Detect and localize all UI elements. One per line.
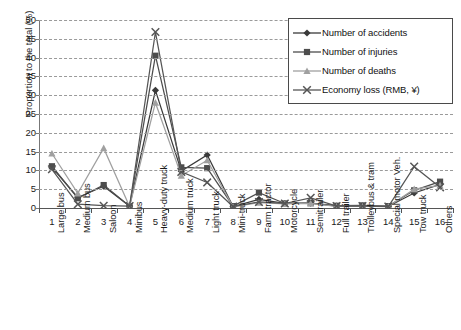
legend-marker-square-icon [292,45,322,59]
data-point-square [304,48,310,54]
legend-item-1[interactable]: Number of injuries [292,42,448,61]
legend-label: Number of accidents [322,27,407,38]
gridline [39,114,453,115]
x-category-label: Others [444,206,454,233]
y-tick-label: 20 [6,127,36,138]
data-point-triangle [100,145,107,152]
y-tick-label: 35 [6,70,36,81]
gridline [39,133,453,134]
x-category-label: Tow truck [418,195,428,233]
legend-marker-diamond-icon [292,26,322,40]
data-point-square [101,182,107,188]
legend-label: Number of injuries [322,46,397,57]
chart-legend: Number of accidentsNumber of injuriesNum… [288,18,453,104]
y-tick-label: 15 [6,146,36,157]
y-tick-label: 45 [6,33,36,44]
data-point-square [256,189,262,195]
data-point-cross [203,179,211,187]
y-tick-label: 30 [6,89,36,100]
legend-item-3[interactable]: Economy loss (RMB, ¥) [292,80,448,99]
legend-label: Number of deaths [322,65,396,76]
y-tick-label: 40 [6,52,36,63]
data-point-diamond [303,29,310,36]
y-tick-mark [35,76,39,77]
series-2 [48,99,443,208]
legend-item-0[interactable]: Number of accidents [292,23,448,42]
y-tick-mark [35,114,39,115]
y-tick-mark [35,133,39,134]
data-point-diamond [152,87,159,94]
y-tick-mark [35,20,39,21]
gridline [39,170,453,171]
y-tick-mark [35,152,39,153]
y-tick-label: 5 [6,183,36,194]
x-tick-mark [39,208,40,213]
x-category-label: Mini-truck [237,194,247,233]
legend-label: Economy loss (RMB, ¥) [322,84,420,95]
gridline [39,189,453,190]
legend-item-2[interactable]: Number of deaths [292,61,448,80]
data-point-cross [410,163,418,171]
y-tick-mark [35,39,39,40]
y-tick-label: 25 [6,108,36,119]
x-category-label: Full trailer [341,193,351,233]
y-tick-label: 50 [6,14,36,25]
gridline [39,152,453,153]
y-tick-mark [35,58,39,59]
y-tick-label: 0 [6,202,36,213]
legend-marker-cross-icon [292,83,322,97]
y-tick-mark [35,189,39,190]
legend-marker-triangle-icon [292,64,322,78]
y-tick-mark [35,95,39,96]
y-tick-label: 10 [6,164,36,175]
y-tick-mark [35,170,39,171]
chart-figure: Proportion to the total (%) 051015202530… [0,0,461,330]
data-point-triangle [74,190,81,197]
